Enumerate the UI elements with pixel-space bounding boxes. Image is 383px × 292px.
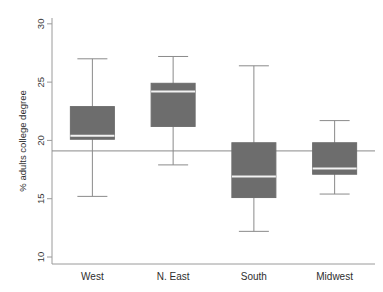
x-tick-label-n-east: N. East: [157, 271, 190, 282]
box-rect: [70, 107, 114, 140]
x-tick-label-midwest: Midwest: [316, 271, 353, 282]
box-rect: [232, 143, 276, 198]
chart-canvas: 1015202530 WestN. EastSouthMidwest % adu…: [0, 0, 383, 292]
boxplot-chart: 1015202530 WestN. EastSouthMidwest % adu…: [0, 0, 383, 292]
y-tick-label-30: 30: [35, 19, 46, 30]
x-tick-label-west: West: [81, 271, 104, 282]
y-tick-label-25: 25: [35, 77, 46, 88]
y-tick-label-15: 15: [35, 193, 46, 204]
box-rect: [313, 143, 357, 174]
y-axis-title: % adults college degree: [17, 90, 28, 191]
box-rect: [151, 83, 195, 126]
y-tick-label-10: 10: [35, 252, 46, 263]
y-tick-label-20: 20: [35, 135, 46, 146]
x-tick-label-south: South: [241, 271, 267, 282]
